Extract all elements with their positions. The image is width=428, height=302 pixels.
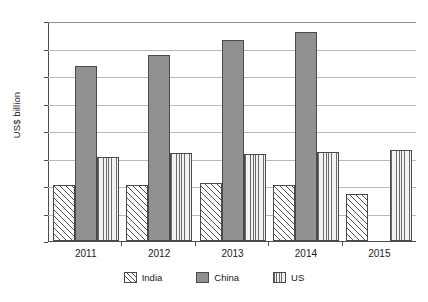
x-axis-label-2012: 2012: [122, 248, 195, 264]
x-axis-label-2015: 2015: [343, 248, 416, 264]
legend-label-china: China: [214, 272, 239, 283]
bar-group-2015: [343, 22, 416, 241]
x-axis-label-2013: 2013: [196, 248, 269, 264]
y-axis-tick-mark: [44, 77, 48, 78]
bar-us-2014: [317, 152, 339, 241]
y-axis-tick-mark: [44, 50, 48, 51]
x-axis-tick-mark: [268, 241, 269, 246]
x-axis-tick-mark: [195, 241, 196, 246]
bar-us-2012: [170, 153, 192, 241]
bar-groups: [49, 22, 416, 241]
bar-china-2011: [75, 66, 97, 241]
y-axis-tick-mark: [44, 215, 48, 216]
legend-label-india: India: [142, 272, 163, 283]
bar-india-2011: [53, 185, 75, 241]
bar-china-2012: [148, 55, 170, 241]
y-axis-title: US$ billion: [11, 75, 25, 155]
legend-item-india: India: [124, 272, 163, 283]
legend-swatch-india: [124, 272, 137, 283]
y-axis-tick-mark: [44, 22, 48, 23]
bar-india-2015: [346, 194, 368, 241]
x-axis-tick-mark: [121, 241, 122, 246]
bar-china-2014: [295, 32, 317, 241]
legend-swatch-china: [196, 272, 209, 283]
y-axis-tick-mark: [44, 160, 48, 161]
y-axis-tick-mark: [44, 187, 48, 188]
x-axis-label-2014: 2014: [269, 248, 342, 264]
x-axis-label-2011: 2011: [49, 248, 122, 264]
bar-group-2014: [269, 22, 342, 241]
bar-group-2011: [49, 22, 122, 241]
bar-india-2012: [126, 185, 148, 241]
bar-chart-figure: US$ billion 0100200300400500600700800 20…: [0, 0, 428, 302]
chart-legend: IndiaChinaUS: [0, 272, 428, 283]
bar-group-2012: [122, 22, 195, 241]
bar-china-2013: [222, 40, 244, 241]
y-axis-tick-mark: [44, 132, 48, 133]
x-axis-tick-mark: [342, 241, 343, 246]
bar-us-2011: [97, 157, 119, 241]
bar-us-2015: [390, 150, 412, 241]
bar-india-2014: [273, 185, 295, 241]
legend-label-us: US: [291, 272, 304, 283]
plot-area: 0100200300400500600700800: [48, 22, 416, 242]
legend-swatch-us: [273, 272, 286, 283]
y-axis-tick-mark: [44, 242, 48, 243]
x-axis-labels: 20112012201320142015: [49, 248, 416, 264]
bar-india-2013: [200, 183, 222, 241]
legend-item-us: US: [273, 272, 304, 283]
y-axis-tick-mark: [44, 105, 48, 106]
legend-item-china: China: [196, 272, 239, 283]
bar-us-2013: [244, 154, 266, 241]
bar-group-2013: [196, 22, 269, 241]
